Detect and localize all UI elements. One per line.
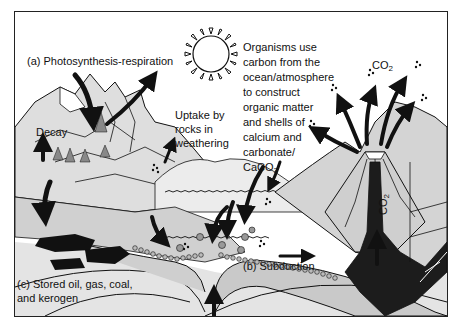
uptake-line-3: weathering	[175, 136, 229, 150]
organisms-line-3: ocean/atmosphere	[243, 70, 334, 85]
organisms-line-8: carbonate/	[243, 145, 334, 160]
co2-vent-main: CO	[377, 199, 389, 216]
organisms-line-5: organic matter	[243, 100, 334, 115]
organisms-line-1: Organisms use	[243, 40, 334, 55]
uptake-line-2: rocks in	[175, 122, 229, 136]
subduction-label: (b) Subduction	[243, 260, 315, 273]
uptake-line-1: Uptake by	[175, 108, 229, 122]
stored-label: (c) Stored oil, gas, coal, and kerogen	[17, 277, 133, 305]
uptake-label: Uptake by rocks in weathering	[175, 108, 229, 150]
caco3-main: CaCO	[243, 161, 274, 173]
photosynthesis-label: (a) Photosynthesis-respiration	[27, 55, 173, 68]
organisms-line-2: carbon from the	[243, 55, 334, 70]
decay-label: Decay	[36, 126, 67, 139]
organisms-line-4: to construct	[243, 85, 334, 100]
stored-line-1: (c) Stored oil, gas, coal,	[17, 277, 133, 291]
sun-icon	[185, 28, 237, 80]
photosynthesis-text: (a) Photosynthesis-respiration	[27, 55, 173, 67]
decay-text: Decay	[36, 126, 67, 138]
volcano-crater	[365, 152, 385, 159]
organisms-line-6: and shells of	[243, 115, 334, 130]
stored-line-2: and kerogen	[17, 291, 133, 305]
co2-top-sub: 2	[389, 64, 393, 73]
caco3-sub: 3	[274, 166, 278, 175]
co2-top-main: CO	[372, 59, 389, 71]
co2-vent-sub: 2	[382, 194, 391, 198]
co2-top-label: CO2	[372, 59, 393, 75]
organisms-label: Organisms use carbon from the ocean/atmo…	[243, 40, 334, 178]
carbon-cycle-diagram: (a) Photosynthesis-respiration Decay Upt…	[14, 11, 448, 317]
caco3-formula: CaCO3	[243, 160, 334, 178]
subduction-text: (b) Subduction	[243, 260, 315, 272]
co2-vent-label: CO2	[377, 194, 393, 215]
organisms-line-7: calcium and	[243, 130, 334, 145]
